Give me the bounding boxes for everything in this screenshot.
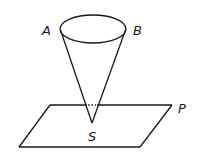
cone-side-left [61,30,93,123]
label-a: A [41,23,51,38]
cone [60,15,126,123]
cone-base-circle [60,15,126,43]
cone-plane-diagram: A B P S [0,0,199,164]
plane-right-edge [140,105,172,147]
cone-side-right [92,30,126,123]
label-p: P [178,101,186,116]
label-s: S [88,129,96,144]
label-b: B [133,23,142,38]
plane-left-edge [19,105,50,147]
